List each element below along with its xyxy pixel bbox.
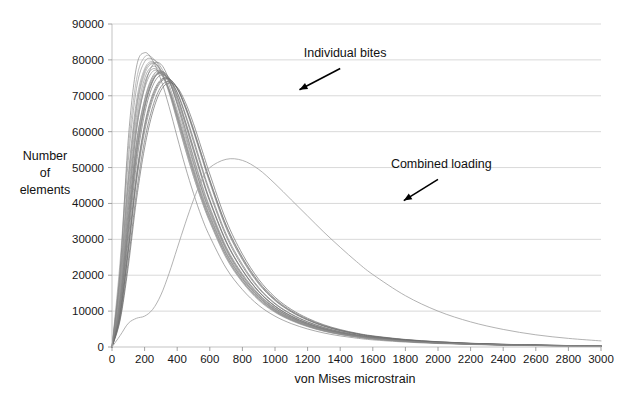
x-tick-label-2600: 2600 xyxy=(523,353,549,365)
x-tick-label-2200: 2200 xyxy=(458,353,484,365)
y-tick-label-30000: 30000 xyxy=(72,233,104,245)
x-tick-label-400: 400 xyxy=(168,353,187,365)
annotation-label-combined-loading: Combined loading xyxy=(391,157,492,171)
y-axis-title-line-2: of xyxy=(40,166,51,180)
y-tick-label-10000: 10000 xyxy=(72,305,104,317)
x-tick-label-1400: 1400 xyxy=(327,353,353,365)
x-tick-label-1800: 1800 xyxy=(393,353,419,365)
y-tick-label-80000: 80000 xyxy=(72,54,104,66)
y-tick-label-70000: 70000 xyxy=(72,90,104,102)
x-tick-label-2000: 2000 xyxy=(425,353,451,365)
y-tick-label-20000: 20000 xyxy=(72,269,104,281)
y-tick-label-90000: 90000 xyxy=(72,18,104,30)
y-tick-label-0: 0 xyxy=(98,341,104,353)
annotation-label-individual-bites: Individual bites xyxy=(304,46,387,60)
von-mises-microstrain-line-chart: 0200400600800100012001400160018002000220… xyxy=(0,0,619,400)
y-tick-label-40000: 40000 xyxy=(72,197,104,209)
x-tick-label-2800: 2800 xyxy=(556,353,582,365)
x-axis-title: von Mises microstrain xyxy=(295,372,416,386)
y-axis-title-line-3: elements xyxy=(20,183,71,197)
x-tick-label-800: 800 xyxy=(233,353,252,365)
x-tick-label-1600: 1600 xyxy=(360,353,386,365)
chart-container: 0200400600800100012001400160018002000220… xyxy=(0,0,619,400)
x-tick-label-3000: 3000 xyxy=(588,353,614,365)
x-tick-label-200: 200 xyxy=(135,353,154,365)
x-axis-title-label: von Mises microstrain xyxy=(295,372,416,386)
x-tick-label-0: 0 xyxy=(109,353,115,365)
x-tick-label-1000: 1000 xyxy=(262,353,288,365)
x-tick-label-600: 600 xyxy=(200,353,219,365)
x-tick-label-1200: 1200 xyxy=(295,353,321,365)
y-axis-title-line-1: Number xyxy=(23,149,67,163)
x-axis-tick-labels: 0200400600800100012001400160018002000220… xyxy=(109,353,614,365)
y-tick-label-50000: 50000 xyxy=(72,162,104,174)
y-tick-label-60000: 60000 xyxy=(72,126,104,138)
x-tick-label-2400: 2400 xyxy=(490,353,516,365)
